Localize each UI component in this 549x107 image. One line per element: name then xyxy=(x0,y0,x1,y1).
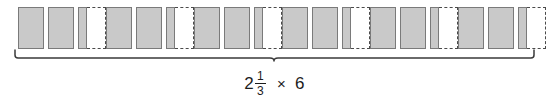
fraction-multiplication-diagram: 2 1 3 × 6 xyxy=(0,0,549,107)
partial-filled-third xyxy=(342,7,351,49)
unit-group xyxy=(370,7,458,49)
mixed-number: 2 1 3 xyxy=(244,70,266,97)
expression-label: 2 1 3 × 6 xyxy=(0,70,549,97)
multiplier: 6 xyxy=(295,74,305,94)
whole-unit-rectangle xyxy=(282,7,308,49)
whole-unit-rectangle xyxy=(400,7,426,49)
unit-group xyxy=(282,7,370,49)
unit-group xyxy=(458,7,546,49)
whole-unit-rectangle xyxy=(458,7,484,49)
partial-unit xyxy=(254,7,282,49)
whole-unit-rectangle xyxy=(194,7,220,49)
partial-unit xyxy=(518,7,546,49)
whole-unit-rectangle xyxy=(312,7,338,49)
whole-unit-rectangle xyxy=(18,7,44,49)
partial-filled-third xyxy=(254,7,263,49)
unit-group xyxy=(18,7,106,49)
partial-filled-third xyxy=(518,7,527,49)
partial-empty-two-thirds xyxy=(263,7,282,49)
partial-unit xyxy=(78,7,106,49)
whole-part: 2 xyxy=(244,75,254,92)
whole-unit-rectangle xyxy=(48,7,74,49)
whole-unit-rectangle xyxy=(106,7,132,49)
partial-unit xyxy=(430,7,458,49)
brace xyxy=(14,50,535,66)
multiplication-operator: × xyxy=(277,75,286,92)
partial-empty-two-thirds xyxy=(351,7,370,49)
partial-empty-two-thirds xyxy=(439,7,458,49)
partial-filled-third xyxy=(78,7,87,49)
expression: 2 1 3 × 6 xyxy=(244,70,305,97)
unit-group xyxy=(106,7,194,49)
partial-filled-third xyxy=(430,7,439,49)
partial-empty-two-thirds xyxy=(175,7,194,49)
partial-unit xyxy=(342,7,370,49)
whole-unit-rectangle xyxy=(224,7,250,49)
unit-groups-row xyxy=(18,7,532,49)
fraction-numerator: 1 xyxy=(255,70,266,83)
partial-empty-two-thirds xyxy=(527,7,546,49)
partial-empty-two-thirds xyxy=(87,7,106,49)
whole-unit-rectangle xyxy=(370,7,396,49)
partial-filled-third xyxy=(166,7,175,49)
fraction-denominator: 3 xyxy=(255,84,266,97)
unit-group xyxy=(194,7,282,49)
whole-unit-rectangle xyxy=(488,7,514,49)
fraction: 1 3 xyxy=(255,70,266,97)
partial-unit xyxy=(166,7,194,49)
whole-unit-rectangle xyxy=(136,7,162,49)
